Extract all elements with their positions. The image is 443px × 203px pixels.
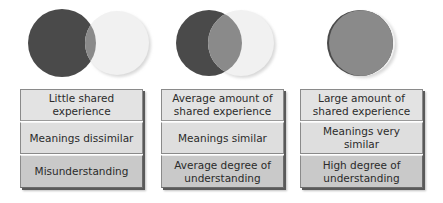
meanings-cell: Meanings dissimilar: [20, 122, 143, 154]
understanding-cell: Misunderstanding: [20, 155, 143, 188]
panel-large-shared: Large amount of shared experience Meanin…: [300, 89, 423, 188]
overlapping-circles-icon: [300, 0, 443, 86]
shared-experience-cell: Little shared experience: [20, 89, 143, 121]
venn-diagram-little-overlap: [0, 0, 150, 86]
meanings-cell: Meanings similar: [161, 122, 284, 154]
overlapping-circles-icon: [150, 0, 300, 86]
panel-little-shared: Little shared experience Meanings dissim…: [20, 89, 143, 188]
shared-experience-cell: Large amount of shared experience: [300, 89, 423, 121]
overlapping-circles-icon: [0, 0, 160, 86]
venn-diagram-large-overlap: [300, 0, 443, 86]
venn-diagram-medium-overlap: [150, 0, 300, 86]
shared-experience-cell: Average amount of shared experience: [161, 89, 284, 121]
panel-average-shared: Average amount of shared experience Mean…: [161, 89, 284, 188]
understanding-cell: Average degree of understanding: [161, 155, 284, 188]
understanding-cell: High degree of understanding: [300, 155, 423, 188]
meanings-cell: Meanings very similar: [300, 122, 423, 154]
